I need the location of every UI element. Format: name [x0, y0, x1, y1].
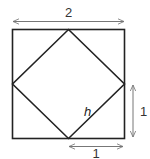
diagram-canvas: 2 1 1 h — [0, 0, 150, 159]
top-dimension-label: 2 — [65, 5, 72, 20]
inner-square — [13, 30, 125, 139]
hypotenuse-label: h — [84, 104, 91, 119]
bottom-dimension-label: 1 — [92, 146, 99, 159]
right-dimension-label: 1 — [140, 104, 147, 119]
outer-square — [13, 30, 125, 139]
